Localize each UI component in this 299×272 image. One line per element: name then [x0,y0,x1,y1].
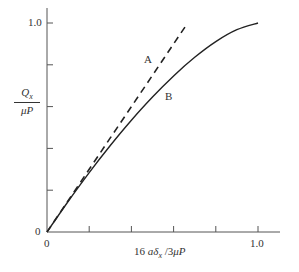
x-label-mu-p: μP [173,245,185,257]
x-tick-label-zero: 0 [44,237,50,249]
x-label-divisor: /3 [162,245,173,257]
x-label-coef: 16 [134,245,148,257]
y-axis-label-numerator: Qx [14,86,40,103]
y-num-subscript: x [29,92,33,101]
y-axis-label-denominator: μP [14,103,40,116]
x-axis-label: 16 aδx /3μP [134,245,186,260]
chart-canvas [0,0,299,272]
y-num-text: Q [21,86,29,98]
axes [47,8,280,232]
annotation-b: B [165,90,172,102]
y-tick-label-zero: 0 [35,225,41,237]
y-axis-label: Qx μP [14,86,40,116]
series-b-solid-curve [47,23,258,232]
annotation-a: A [144,53,152,65]
y-tick-label-max: 1.0 [28,16,42,28]
x-tick-label-max: 1.0 [250,237,264,249]
axis-ticks [47,23,258,232]
